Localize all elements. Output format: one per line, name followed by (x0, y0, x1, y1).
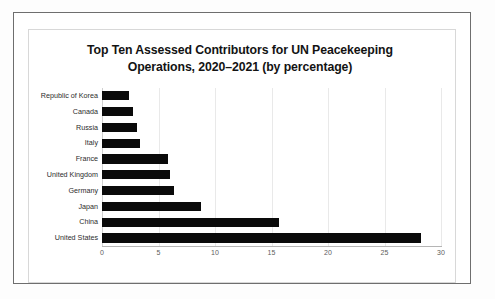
y-axis-label: Germany (68, 183, 98, 199)
x-gridline-30 (441, 88, 442, 246)
bar (102, 202, 201, 211)
bar-row (102, 230, 441, 246)
bar-row (102, 183, 441, 199)
screenshot-page: Top Ten Assessed Contributors for UN Pea… (0, 0, 495, 299)
y-axis-label: France (76, 151, 98, 167)
chart-title-line-1: Top Ten Assessed Contributors for UN Pea… (87, 43, 393, 57)
bar (102, 218, 279, 227)
y-axis-category-labels: Republic of KoreaCanadaRussiaItalyFrance… (0, 88, 98, 246)
bar-row (102, 88, 441, 104)
y-axis-label: Canada (73, 104, 98, 120)
y-axis-label: Russia (76, 120, 98, 136)
bar (102, 123, 137, 132)
bar-row (102, 104, 441, 120)
x-tick-label: 30 (431, 249, 451, 256)
x-tick-label: 5 (149, 249, 169, 256)
chart-title-line-2: Operations, 2020–2021 (by percentage) (40, 59, 440, 76)
bar (102, 154, 168, 163)
chart-title: Top Ten Assessed Contributors for UN Pea… (40, 42, 440, 76)
bar-row (102, 151, 441, 167)
bar-row (102, 135, 441, 151)
bar (102, 170, 170, 179)
bar-row (102, 214, 441, 230)
y-axis-label: Republic of Korea (41, 88, 98, 104)
bar (102, 233, 421, 242)
x-axis-line (102, 246, 442, 247)
y-axis-label: United States (55, 230, 98, 246)
bar-row (102, 199, 441, 215)
bar (102, 139, 140, 148)
y-axis-label: China (79, 214, 98, 230)
bar-row (102, 120, 441, 136)
bar (102, 107, 133, 116)
x-tick-label: 0 (92, 249, 112, 256)
y-axis-label: Italy (85, 135, 98, 151)
bar (102, 91, 129, 100)
bar-row (102, 167, 441, 183)
x-tick-label: 10 (205, 249, 225, 256)
y-axis-label: United Kingdom (47, 167, 98, 183)
bar (102, 186, 174, 195)
x-tick-label: 25 (375, 249, 395, 256)
x-tick-label: 20 (318, 249, 338, 256)
plot-area (102, 88, 441, 246)
x-tick-label: 15 (262, 249, 282, 256)
y-axis-label: Japan (78, 199, 98, 215)
